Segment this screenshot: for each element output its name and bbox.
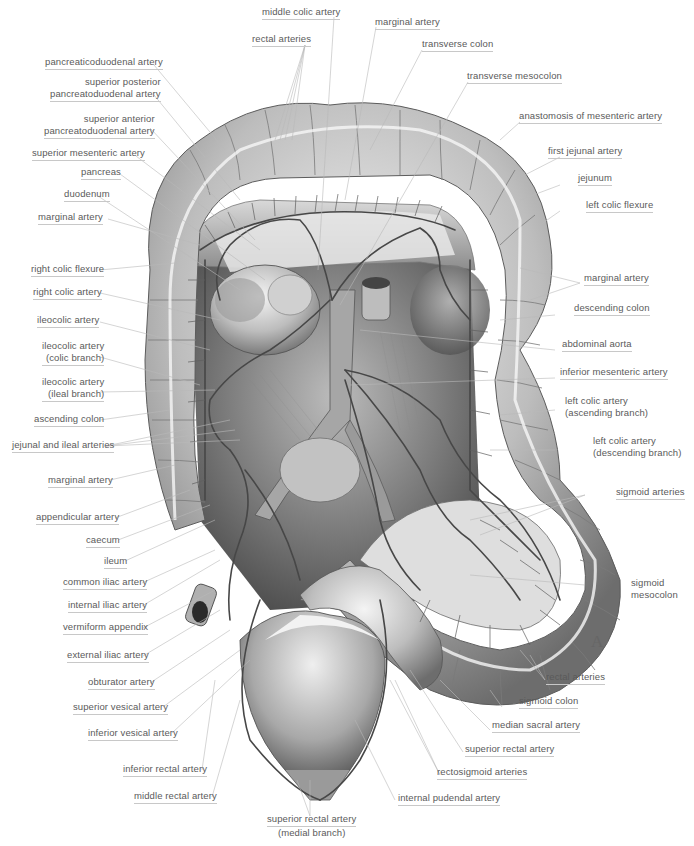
label-common-iliac-artery: common iliac artery (63, 576, 147, 590)
label-internal-pudendal-artery: internal pudendal artery (398, 792, 500, 806)
label-inferior-vesical-artery: inferior vesical artery (88, 727, 178, 741)
label-marginal-artery-top: marginal artery (375, 16, 440, 30)
label-median-sacral-artery: median sacral artery (492, 719, 580, 733)
label-inferior-rectal-artery: inferior rectal artery (123, 763, 207, 777)
label-superior-rectal-artery: superior rectal artery (465, 743, 554, 757)
label-left-colic-artery-descending-branch: left colic artery(descending branch) (593, 435, 682, 459)
label-duodenum: duodenum (64, 188, 110, 202)
label-ileum: ileum (104, 555, 127, 569)
label-caecum: caecum (86, 534, 120, 548)
label-inferior-mesenteric-artery: inferior mesenteric artery (560, 366, 668, 380)
label-middle-rectal-artery: middle rectal artery (134, 790, 217, 804)
label-superior-rectal-artery-medial-branch: superior rectal artery(medial branch) (267, 813, 356, 839)
label-vermiform-appendix: vermiform appendix (63, 621, 148, 635)
label-ileocolic-artery-ileal-branch: ileocolic artery(ileal branch) (42, 376, 104, 402)
label-sigmoid-mesocolon: sigmoidmesocolon (631, 577, 678, 601)
label-superior-vesical-artery: superior vesical artery (73, 701, 168, 715)
label-descending-colon: descending colon (574, 302, 650, 316)
label-marginal-artery-left-upper: marginal artery (38, 211, 103, 225)
label-ileocolic-artery-colic-branch: ileocolic artery(colic branch) (42, 340, 104, 366)
label-transverse-colon: transverse colon (422, 38, 493, 52)
label-sigmoid-colon: sigmoid colon (519, 695, 578, 709)
panel-letter: A (591, 632, 603, 652)
label-middle-colic-artery: middle colic artery (262, 6, 340, 20)
label-marginal-artery-left-lower: marginal artery (48, 474, 113, 488)
label-jejunal-and-ileal-arteries: jejunal and ileal arteries (12, 439, 114, 453)
label-right-colic-flexure: right colic flexure (31, 263, 104, 277)
label-first-jejunal-artery: first jejunal artery (548, 145, 622, 159)
label-sigmoid-arteries: sigmoid arteries (616, 486, 685, 500)
label-superior-mesenteric-artery: superior mesenteric artery (32, 147, 145, 161)
label-left-colic-artery-ascending-branch: left colic artery(ascending branch) (565, 395, 648, 419)
label-rectal-arteries-top: rectal arteries (252, 33, 311, 47)
rectum-shape (240, 611, 385, 790)
label-rectosigmoid-arteries: rectosigmoid arteries (437, 766, 527, 780)
label-anastomosis-of-mesenteric-artery: anastomosis of mesenteric artery (519, 110, 662, 124)
label-right-colic-artery: right colic artery (33, 286, 102, 300)
label-internal-iliac-artery: internal iliac artery (68, 599, 147, 613)
label-rectal-arteries-bottom: rectal arteries (546, 671, 605, 685)
label-transverse-mesocolon: transverse mesocolon (467, 70, 562, 84)
label-ileocolic-artery: ileocolic artery (37, 314, 99, 328)
label-jejunum: jejunum (578, 172, 612, 186)
label-abdominal-aorta: abdominal aorta (562, 338, 632, 352)
label-pancreas: pancreas (81, 166, 121, 180)
label-superior-anterior-pancreatoduodenal-artery: superior anteriorpancreatoduodenal arter… (44, 113, 155, 139)
label-appendicular-artery: appendicular artery (36, 511, 119, 525)
label-left-colic-flexure: left colic flexure (586, 199, 653, 213)
anatomical-figure: middle colic artery rectal arteries marg… (0, 0, 694, 846)
label-superior-posterior-pancreatoduodenal-artery: superior posteriorpancreatoduodenal arte… (50, 76, 161, 102)
label-pancreaticoduodenal-artery: pancreaticoduodenal artery (45, 56, 163, 70)
label-obturator-artery: obturator artery (88, 676, 155, 690)
label-external-iliac-artery: external iliac artery (67, 649, 149, 663)
label-marginal-artery-right: marginal artery (584, 272, 649, 286)
label-ascending-colon: ascending colon (34, 413, 104, 427)
